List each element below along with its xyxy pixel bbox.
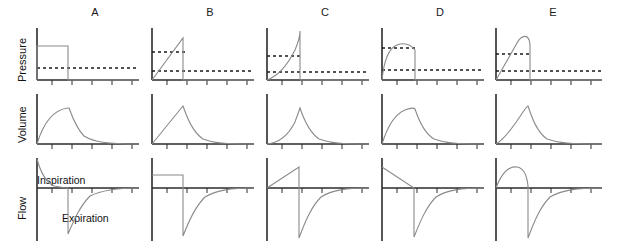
trace-flow-b bbox=[152, 175, 254, 236]
trace-pressure-e bbox=[496, 36, 602, 80]
row-label-flow: Flow bbox=[16, 197, 28, 220]
row-label-pressure: Pressure bbox=[16, 38, 28, 82]
panel-volume-d bbox=[377, 92, 485, 152]
trace-flow-d bbox=[382, 167, 484, 237]
panel-volume-c bbox=[262, 92, 370, 152]
row-label-volume: Volume bbox=[16, 106, 28, 143]
column-header-e: E bbox=[523, 6, 583, 18]
trace-pressure-d bbox=[382, 44, 484, 80]
panel-volume-b bbox=[147, 92, 255, 152]
panel-pressure-c bbox=[262, 26, 370, 88]
trace-volume-d bbox=[382, 108, 484, 144]
panel-volume-e bbox=[491, 92, 603, 152]
column-header-c: C bbox=[295, 6, 355, 18]
trace-volume-a bbox=[37, 108, 139, 144]
column-header-a: A bbox=[65, 6, 125, 18]
trace-pressure-b bbox=[152, 38, 254, 80]
panel-flow-e bbox=[491, 156, 603, 243]
column-header-d: D bbox=[410, 6, 470, 18]
trace-flow-e bbox=[496, 167, 602, 238]
panel-pressure-b bbox=[147, 26, 255, 88]
trace-pressure-a bbox=[37, 46, 139, 80]
trace-flow-a bbox=[37, 159, 139, 234]
panel-pressure-d bbox=[377, 26, 485, 88]
column-header-b: B bbox=[180, 6, 240, 18]
trace-flow-c bbox=[267, 167, 369, 238]
trace-volume-e bbox=[496, 106, 602, 144]
panel-pressure-e bbox=[491, 26, 603, 88]
panel-flow-c bbox=[262, 156, 370, 243]
panel-flow-b bbox=[147, 156, 255, 243]
panel-flow-d bbox=[377, 156, 485, 243]
ventilator-waveform-figure: A B C D E Pressure Volume Flow Inspirati… bbox=[0, 0, 629, 243]
panel-flow-a bbox=[32, 156, 140, 243]
trace-volume-c bbox=[267, 108, 369, 144]
trace-volume-b bbox=[152, 106, 254, 144]
panel-volume-a bbox=[32, 92, 140, 152]
panel-pressure-a bbox=[32, 26, 140, 88]
